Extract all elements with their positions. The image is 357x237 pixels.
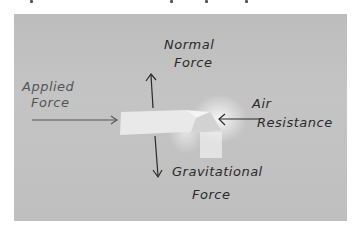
normal-label-line1: Normal (164, 37, 214, 52)
air-label-line2: Resistance (257, 115, 333, 130)
gravitational-label-line2: Force (192, 187, 230, 202)
gravitational-force-arrow (153, 136, 162, 177)
air-label-line1: Air (251, 96, 273, 111)
paper-airplane (120, 110, 222, 158)
normal-force-arrow (146, 74, 156, 108)
applied-label-line1: Applied (21, 79, 75, 94)
applied-force-arrow (32, 116, 117, 124)
gravitational-label-line1: Gravitational (172, 164, 263, 179)
force-diagram: Normal Force Applied Force Air Resistanc… (14, 14, 347, 221)
cut-off-text-line (0, 0, 357, 4)
applied-label-line2: Force (31, 95, 69, 110)
diagram-photo: Normal Force Applied Force Air Resistanc… (14, 14, 347, 221)
normal-label-line2: Force (174, 55, 212, 70)
air-resistance-arrow (219, 114, 261, 125)
